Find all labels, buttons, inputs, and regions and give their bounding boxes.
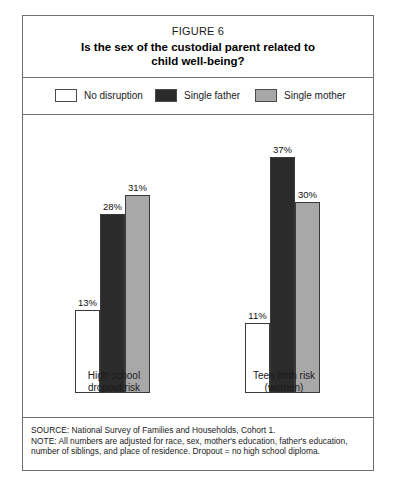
- legend-swatch-no-disruption: [55, 89, 77, 102]
- legend-label-single-mother: Single mother: [284, 90, 346, 101]
- bar-group-teen-birth-risk: 11% 37% 30% Teen birth risk (women): [245, 138, 323, 393]
- bar-wrap-0-1: 28%: [100, 138, 125, 393]
- legend-item-no-disruption: No disruption: [55, 89, 143, 102]
- group-label-0-line-1: High school: [53, 370, 175, 382]
- bar-single-mother-teen-birth-risk: [295, 202, 320, 393]
- title-band: FIGURE 6 Is the sex of the custodial par…: [23, 16, 373, 78]
- bar-value-1-1: 37%: [267, 144, 298, 155]
- footnote-source: SOURCE: National Survey of Families and …: [31, 425, 365, 436]
- bar-wrap-1-1: 37%: [270, 138, 295, 393]
- figure-footnotes: SOURCE: National Survey of Families and …: [23, 418, 373, 470]
- legend-label-single-father: Single father: [184, 90, 240, 101]
- chart-legend: No disruption Single father Single mothe…: [23, 78, 373, 115]
- group-label-teen-birth-risk: Teen birth risk (women): [223, 370, 345, 394]
- bars-row: 11% 37% 30%: [245, 138, 323, 393]
- bar-value-0-0: 13%: [72, 297, 103, 308]
- figure-frame: FIGURE 6 Is the sex of the custodial par…: [22, 15, 374, 471]
- footnote-note-line-2: number of siblings, and place of residen…: [31, 446, 365, 457]
- legend-item-single-mother: Single mother: [255, 89, 346, 102]
- figure-number: FIGURE 6: [23, 25, 373, 37]
- bar-group-high-school-dropout-risk: 13% 28% 31% High school dropout risk: [75, 138, 153, 393]
- chart-plot-area: 13% 28% 31% High school dropout risk: [23, 115, 373, 418]
- figure-title-line-2: child well-being?: [41, 54, 355, 68]
- bars-row: 13% 28% 31%: [75, 138, 153, 393]
- bar-single-father-high-school-dropout-risk: [100, 214, 125, 393]
- group-label-1-line-1: Teen birth risk: [223, 370, 345, 382]
- bar-value-0-2: 31%: [122, 182, 153, 193]
- footnote-note-line-1: NOTE: All numbers are adjusted for race,…: [31, 436, 365, 447]
- bar-wrap-0-0: 13%: [75, 138, 100, 393]
- bar-wrap-0-2: 31%: [125, 138, 150, 393]
- bar-value-0-1: 28%: [97, 201, 128, 212]
- group-label-0-line-2: dropout risk: [53, 382, 175, 394]
- bar-wrap-1-2: 30%: [295, 138, 320, 393]
- bar-value-1-2: 30%: [292, 189, 323, 200]
- bar-wrap-1-0: 11%: [245, 138, 270, 393]
- figure-title-line-1: Is the sex of the custodial parent relat…: [41, 40, 355, 54]
- legend-item-single-father: Single father: [155, 89, 240, 102]
- group-label-high-school-dropout-risk: High school dropout risk: [53, 370, 175, 394]
- bar-single-mother-high-school-dropout-risk: [125, 195, 150, 393]
- legend-label-no-disruption: No disruption: [84, 90, 143, 101]
- group-label-1-line-2: (women): [223, 382, 345, 394]
- legend-swatch-single-father: [155, 89, 177, 102]
- legend-swatch-single-mother: [255, 89, 277, 102]
- figure-title: Is the sex of the custodial parent relat…: [23, 40, 373, 68]
- bar-value-1-0: 11%: [242, 310, 273, 321]
